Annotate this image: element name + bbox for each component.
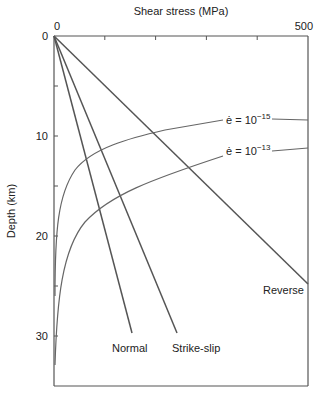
y-axis-title: Depth (km) <box>5 184 17 238</box>
x-tick-label-0: 0 <box>54 20 60 32</box>
reverse-fault-line <box>54 36 308 284</box>
y-tick-label-0: 0 <box>42 30 48 42</box>
strain-rate-1e-13-label: ė = 10−13 <box>226 143 271 157</box>
reverse-label: Reverse <box>263 284 304 296</box>
axes <box>54 36 308 386</box>
normal-fault-line <box>54 36 132 333</box>
y-tick-label-30: 30 <box>36 330 48 342</box>
chart: Shear stress (MPa) 0 500 0 10 20 30 Dept… <box>0 0 320 395</box>
strain-rate-1e-13-curve <box>55 148 308 365</box>
strike-slip-fault-line <box>54 36 177 333</box>
normal-label: Normal <box>112 342 147 354</box>
strain-rate-1e-15-label: ė = 10−15 <box>226 112 271 126</box>
strike-slip-label: Strike-slip <box>172 342 220 354</box>
y-tick-label-20: 20 <box>36 230 48 242</box>
y-tick-label-10: 10 <box>36 130 48 142</box>
x-tick-label-500: 500 <box>295 20 313 32</box>
x-axis-title: Shear stress (MPa) <box>134 5 229 17</box>
